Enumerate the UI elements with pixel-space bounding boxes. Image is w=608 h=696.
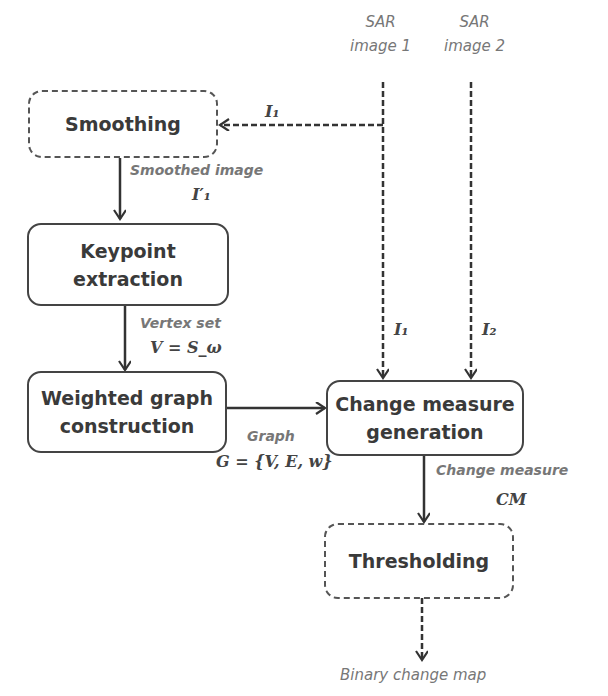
binary-change-map-label: Binary change map (340, 666, 486, 684)
thresholding-box: Thresholding (324, 523, 514, 599)
g-equation-label: G = {V, E, w} (216, 452, 333, 471)
weighted-graph-box: Weighted graph construction (27, 371, 227, 453)
sar1-line2: image 1 (350, 34, 411, 58)
graph-line1: Weighted graph (41, 384, 213, 412)
keypoint-line2: extraction (73, 265, 183, 293)
sar2-line1: SAR (444, 10, 505, 34)
sar2-line2: image 2 (444, 34, 505, 58)
i1-top-label: I₁ (265, 102, 280, 121)
sar-image-2-label: SAR image 2 (444, 10, 505, 58)
smoothing-box: Smoothing (28, 90, 218, 158)
i1-mid-label: I₁ (394, 320, 409, 339)
change-line2: generation (366, 418, 483, 446)
vertex-set-label: Vertex set (140, 315, 221, 331)
smoothed-image-label: Smoothed image (130, 162, 263, 178)
sar-image-1-label: SAR image 1 (350, 10, 411, 58)
i1-prime-label: I′₁ (192, 185, 211, 204)
keypoint-extraction-box: Keypoint extraction (27, 223, 229, 306)
keypoint-line1: Keypoint (80, 237, 175, 265)
i2-mid-label: I₂ (482, 320, 497, 339)
sar1-line1: SAR (350, 10, 411, 34)
v-equation-label: V = S_ω (150, 338, 222, 357)
cm-label: CM (496, 490, 526, 509)
graph-label: Graph (247, 428, 295, 444)
change-measure-box: Change measure generation (326, 380, 524, 456)
change-line1: Change measure (335, 390, 515, 418)
change-measure-label: Change measure (436, 462, 568, 478)
graph-line2: construction (60, 412, 195, 440)
